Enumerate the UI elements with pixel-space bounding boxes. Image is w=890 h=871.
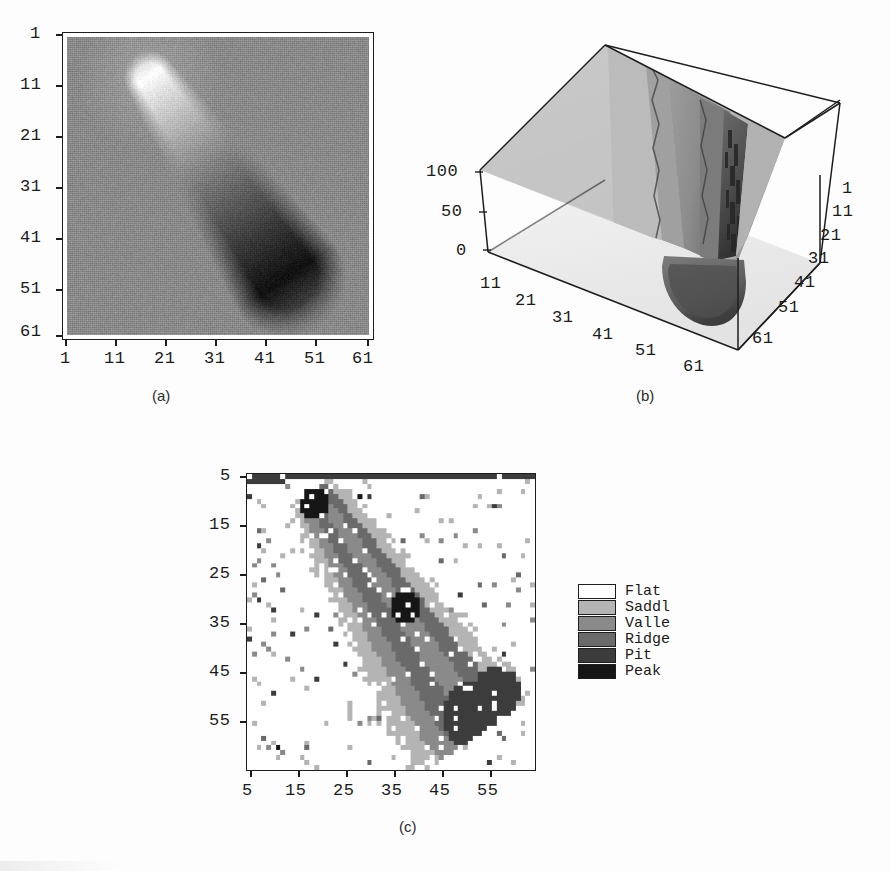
panel-c-classification-canvas [247, 474, 535, 770]
panel-a-x-tick-6: 61 [352, 350, 373, 367]
panel-b-y-tick-1: 11 [832, 203, 853, 220]
panel-c-x-tick-4: 45 [429, 782, 450, 799]
panel-b-x-tick-4: 51 [635, 342, 656, 359]
legend-swatch-pit [578, 648, 616, 663]
legend-swatch-peak [578, 664, 616, 679]
legend-label-pit: Pit [625, 648, 652, 663]
panel-a-y-tick-0: 1 [30, 25, 41, 42]
panel-c: 5 15 25 35 45 55 5 15 25 35 45 55 [180, 455, 740, 855]
panel-b-y-tick-6: 61 [752, 330, 773, 347]
legend-label-saddle: Saddl [625, 600, 670, 615]
panel-c-legend: Flat Saddl Valle Ridge Pit Peak [578, 583, 670, 679]
legend-item-pit: Pit [578, 647, 670, 663]
panel-b-x-tick-0: 11 [480, 275, 501, 292]
panel-c-x-tickmarks [246, 771, 536, 777]
panel-a-x-tick-5: 51 [304, 350, 325, 367]
panel-b-caption: (b) [636, 387, 654, 404]
legend-item-saddle: Saddl [578, 599, 670, 615]
panel-a-y-tick-5: 51 [20, 280, 41, 297]
panel-c-caption: (c) [399, 818, 417, 835]
panel-a-x-tick-1: 11 [104, 350, 125, 367]
panel-a-x-tick-0: 1 [60, 350, 71, 367]
legend-label-flat: Flat [625, 584, 661, 599]
panel-c-y-tick-0: 5 [220, 467, 231, 484]
legend-swatch-flat [578, 584, 616, 599]
panel-c-y-tick-1: 15 [209, 516, 230, 533]
legend-item-valley: Valle [578, 615, 670, 631]
panel-a-y-tick-3: 31 [20, 178, 41, 195]
panel-a-x-tick-4: 41 [254, 350, 275, 367]
panel-a-x-tick-2: 21 [154, 350, 175, 367]
panel-a: 1 11 21 31 41 51 61 1 11 21 31 41 51 61 [0, 20, 400, 395]
panel-b-y-tick-3: 31 [808, 250, 829, 267]
panel-a-image [67, 37, 369, 335]
legend-item-ridge: Ridge [578, 631, 670, 647]
panel-a-y-tick-1: 11 [20, 76, 41, 93]
panel-c-x-tick-5: 55 [477, 782, 498, 799]
panel-a-x-tick-3: 31 [204, 350, 225, 367]
panel-c-y-tickmarks [240, 473, 246, 771]
legend-swatch-ridge [578, 632, 616, 647]
panel-c-y-tick-4: 45 [209, 663, 230, 680]
panel-b-z-tick-0: 100 [426, 163, 458, 180]
panel-b-y-tick-4: 41 [794, 274, 815, 291]
panel-a-y-tickmarks [56, 32, 62, 340]
legend-swatch-saddle [578, 600, 616, 615]
panel-b-z-tick-1: 50 [441, 203, 462, 220]
legend-swatch-valley [578, 616, 616, 631]
legend-label-valley: Valle [625, 616, 670, 631]
panel-c-x-tick-3: 35 [381, 782, 402, 799]
panel-b-surface-plot [400, 20, 890, 395]
panel-a-film-grain [67, 37, 369, 335]
legend-item-peak: Peak [578, 663, 670, 679]
panel-b-y-tick-0: 1 [842, 180, 853, 197]
panel-a-y-tick-2: 21 [20, 127, 41, 144]
panel-b-y-tick-2: 21 [820, 227, 841, 244]
panel-b-z-tick-2: 0 [456, 242, 467, 259]
panel-c-x-tick-0: 5 [242, 782, 253, 799]
figure-root: 1 11 21 31 41 51 61 1 11 21 31 41 51 61 [0, 0, 890, 871]
panel-a-x-tickmarks [62, 340, 374, 346]
panel-a-caption: (a) [152, 387, 170, 404]
panel-b: 100 50 0 11 21 31 41 51 61 1 11 21 31 41… [400, 20, 890, 395]
panel-b-x-tick-5: 61 [683, 358, 704, 375]
panel-c-x-tick-2: 25 [333, 782, 354, 799]
panel-b-z-tickmarks [475, 172, 491, 250]
legend-label-peak: Peak [625, 664, 661, 679]
scan-edge-artifact [0, 861, 120, 871]
legend-label-ridge: Ridge [625, 632, 670, 647]
legend-item-flat: Flat [578, 583, 670, 599]
panel-a-plot-frame [62, 32, 374, 340]
panel-a-y-tick-6: 61 [20, 323, 41, 340]
panel-c-plot-frame [246, 473, 536, 771]
panel-b-x-tick-2: 31 [552, 309, 573, 326]
panel-b-y-tick-5: 51 [778, 299, 799, 316]
panel-c-y-tick-5: 55 [209, 712, 230, 729]
panel-b-x-tick-1: 21 [515, 292, 536, 309]
panel-b-x-tick-3: 41 [592, 326, 613, 343]
panel-c-y-tick-2: 25 [209, 565, 230, 582]
panel-c-y-tick-3: 35 [209, 614, 230, 631]
panel-a-y-tick-4: 41 [20, 229, 41, 246]
panel-c-x-tick-1: 15 [285, 782, 306, 799]
